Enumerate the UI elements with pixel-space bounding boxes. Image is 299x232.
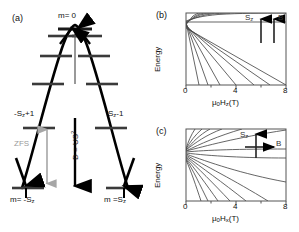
panel-a-top-level-label: m= 0 [58,12,76,20]
panel-c: (c) Energy 0 4 8 μ0Hx(T) Sz B [150,116,299,232]
level-line-b-2 [186,27,270,85]
panel-a-left-upper-label: -Sz+1 [14,110,34,118]
c-inset-spin-sub: z [245,133,248,139]
panel-a-zfs-label: ZFS [14,140,29,148]
panel-c-xtick-0: 0 [183,203,187,211]
panel-b-xtick-8: 8 [283,87,287,95]
b-inset-spin-sub: z [250,16,253,22]
left-upper-pre: -S [14,109,22,118]
panel-b-y-axis-label: Energy [154,47,162,72]
level-line-c-dn-3 [186,156,246,201]
c-xlabel-post: (T) [229,214,239,223]
level-line-c-up-2 [186,129,202,149]
panel-b-letter: (b) [156,11,167,20]
bottom-left-sub: z [32,198,35,204]
level-line-b-5 [186,24,220,85]
left-upper-post: +1 [25,109,34,118]
panel-b-xtick-4: 4 [233,87,237,95]
bottom-left-pre: m= -S [10,195,32,204]
panel-a: (a) m= 0 -Sz+1 Sz-1 ZFS m= -Sz m =Sz D =… [0,0,150,232]
figure-root: (a) m= 0 -Sz+1 Sz-1 ZFS m= -Sz m =Sz D =… [0,0,299,232]
panel-c-inset-spin-label: Sz [240,131,248,139]
level-line-b-3 [186,26,254,85]
panel-a-bottom-left-label: m= -Sz [10,196,35,204]
panel-c-xtick-4: 4 [233,203,237,211]
panel-a-barrier-label: D = US2 [70,131,80,160]
panel-a-right-upper-label: Sz-1 [108,110,123,118]
level-line-c-dn-7 [186,160,201,201]
level-line-c-dn-4 [186,157,230,201]
panel-a-bottom-right-label: m =Sz [104,196,126,204]
level-line-c-up-6 [186,130,286,151]
panel-c-inset [245,134,274,158]
bottom-right-sub: z [123,198,126,204]
level-line-b-4 [186,25,236,85]
level-line-b-1 [186,28,286,85]
panel-b: (b) Energy 0 4 8 μ0Hz(T) Sz B [150,0,299,116]
panel-b-x-axis-label: μ0Hz(T) [212,99,239,107]
b-xlabel-post: (T) [229,98,239,107]
panel-b-inset-field-label: B [278,14,283,22]
level-line-b-up-1 [186,13,286,21]
level-line-c-flat [186,153,286,158]
level-line-c-dn-5 [186,158,218,201]
panel-b-frame [186,13,286,85]
bottom-right-pre: m =S [104,195,123,204]
right-upper-post: -1 [116,109,123,118]
panel-c-y-axis-label: Energy [154,163,162,188]
panel-b-inset [261,19,274,43]
panel-c-xtick-8: 8 [283,203,287,211]
barrier-sup: 2 [70,131,76,134]
panel-c-x-axis-label: μ0Hx(T) [212,215,239,223]
panel-b-inset-spin-label: Sz [245,14,253,22]
relax-arrow-left [16,158,26,186]
panel-c-inset-field-label: B [276,140,281,148]
relax-arrow-right [124,158,134,186]
barrier-pre: D = US [71,134,80,160]
panel-a-letter: (a) [12,14,23,23]
level-line-c-mid [186,149,286,152]
panel-b-xtick-0: 0 [183,87,187,95]
panel-c-letter: (c) [156,127,167,136]
